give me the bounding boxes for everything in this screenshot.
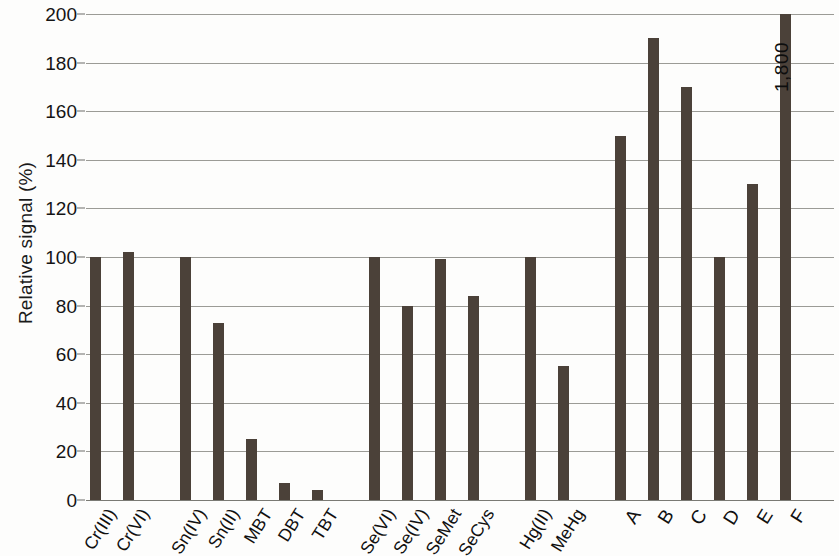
bar-snii xyxy=(213,323,224,500)
gridline xyxy=(86,63,834,64)
x-axis-label: C xyxy=(686,506,709,528)
x-axis-label: TBT xyxy=(309,506,341,543)
x-axis-label: Cr(VI) xyxy=(113,506,153,555)
y-axis-title: Relative signal (%) xyxy=(15,113,37,373)
y-tick-label: 80 xyxy=(56,296,77,315)
y-tick-label: 40 xyxy=(56,393,77,412)
y-tick-mark xyxy=(77,208,85,209)
bar-c xyxy=(681,87,692,500)
bar-d xyxy=(714,257,725,500)
bar-sevi xyxy=(369,257,380,500)
bar-b xyxy=(648,38,659,500)
y-tick-mark xyxy=(77,62,85,63)
y-tick-label: 200 xyxy=(45,5,77,24)
y-tick-label: 100 xyxy=(45,248,77,267)
y-tick-label: 160 xyxy=(45,102,77,121)
y-tick-mark xyxy=(77,111,85,112)
y-tick-mark xyxy=(77,500,85,501)
bar-crvi xyxy=(123,252,134,500)
x-axis-label: B xyxy=(654,506,677,527)
bar-mehg xyxy=(558,366,569,500)
y-tick-label: 0 xyxy=(66,491,77,510)
x-axis-label: DBT xyxy=(275,506,308,545)
y-tick-mark xyxy=(77,14,85,15)
bar-sniv xyxy=(180,257,191,500)
y-tick-label: 140 xyxy=(45,150,77,169)
y-tick-mark xyxy=(77,402,85,403)
bar-seiv xyxy=(402,306,413,500)
y-tick-mark xyxy=(77,354,85,355)
overflow-value-annotation: 1,800 xyxy=(771,42,793,92)
bar-criii xyxy=(90,257,101,500)
y-tick-mark xyxy=(77,257,85,258)
gridline xyxy=(86,111,834,112)
x-axis-label: F xyxy=(786,506,808,526)
y-tick-mark xyxy=(77,451,85,452)
x-axis-label: E xyxy=(753,506,776,527)
bar-tbt xyxy=(312,490,323,500)
y-tick-mark xyxy=(77,159,85,160)
bar-mbt xyxy=(246,439,257,500)
x-axis-label: MBT xyxy=(241,506,275,547)
y-tick-mark xyxy=(77,305,85,306)
gridline xyxy=(86,208,834,209)
bar-semet xyxy=(435,259,446,500)
bar-hgii xyxy=(525,257,536,500)
y-tick-label: 120 xyxy=(45,199,77,218)
gridline xyxy=(86,14,834,15)
x-axis-label: A xyxy=(621,506,644,527)
bar-dbt xyxy=(279,483,290,500)
y-tick-label: 180 xyxy=(45,53,77,72)
x-axis-label: Sn(IV) xyxy=(168,506,209,556)
bar-chart: Relative signal (%) 02040608010012014016… xyxy=(0,0,839,556)
gridline xyxy=(86,500,834,501)
gridline xyxy=(86,160,834,161)
bar-e xyxy=(747,184,758,500)
x-axis-label: MeHg xyxy=(548,506,588,555)
y-tick-label: 20 xyxy=(56,442,77,461)
x-axis-label: D xyxy=(719,506,742,528)
x-axis-label: Sn(II) xyxy=(205,506,243,552)
bar-a xyxy=(615,136,626,501)
plot-area: 020406080100120140160180200 xyxy=(86,14,834,500)
bar-secys xyxy=(468,296,479,500)
y-tick-label: 60 xyxy=(56,345,77,364)
